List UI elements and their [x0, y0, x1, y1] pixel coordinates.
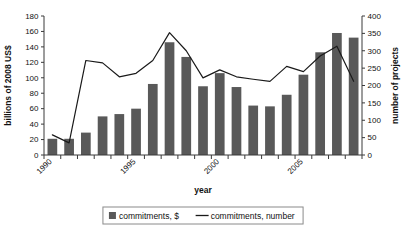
bar-2001: [232, 87, 242, 155]
bar-2000: [215, 73, 225, 155]
bar-2002: [248, 106, 258, 155]
bar-2004: [282, 95, 292, 155]
bar-2008: [349, 38, 359, 155]
bar-1999: [198, 86, 208, 155]
ytick-label-right-150: 150: [368, 99, 382, 108]
ytick-label-left-100: 100: [25, 74, 39, 83]
ytick-label-right-100: 100: [368, 116, 382, 125]
bar-2005: [299, 75, 309, 155]
legend: commitments, $commitments, number: [103, 207, 303, 224]
ytick-label-left-0: 0: [34, 151, 39, 160]
ytick-label-left-60: 60: [30, 104, 39, 113]
y-axis-title-right: number of projects: [390, 47, 400, 124]
ytick-label-left-20: 20: [30, 135, 39, 144]
bar-1995: [131, 109, 141, 155]
ytick-label-right-50: 50: [368, 133, 377, 142]
bar-1990: [48, 139, 58, 155]
bar-1998: [181, 57, 191, 155]
legend-swatch-commitments-dollar: [109, 212, 116, 219]
bar-2003: [265, 106, 275, 155]
xtick-labels: 1990199520002005: [35, 157, 305, 176]
chart-container: 0204060801001201401601800501001502002503…: [0, 0, 408, 236]
bar-1997: [165, 42, 175, 155]
ytick-label-right-0: 0: [368, 151, 373, 160]
legend-label-commitments-number: commitments, number: [211, 211, 295, 221]
ytick-label-left-140: 140: [25, 43, 39, 52]
bar-1996: [148, 84, 158, 155]
xtick-label-1995: 1995: [119, 157, 138, 176]
ytick-label-left-80: 80: [30, 89, 39, 98]
figure-canvas: 0204060801001201401601800501001502002503…: [0, 0, 408, 236]
x-axis-title: year: [194, 185, 212, 195]
ytick-label-right-250: 250: [368, 64, 382, 73]
ytick-label-left-180: 180: [25, 12, 39, 21]
bar-1994: [114, 114, 124, 155]
legend-label-commitments-dollar: commitments, $: [119, 211, 179, 221]
bar-1992: [81, 133, 91, 155]
ytick-label-right-400: 400: [368, 12, 382, 21]
ytick-label-left-160: 160: [25, 27, 39, 36]
ytick-label-right-350: 350: [368, 29, 382, 38]
bar-2007: [332, 33, 342, 155]
bar-series: [48, 33, 359, 155]
ytick-label-left-120: 120: [25, 58, 39, 67]
bar-1993: [98, 116, 108, 155]
y-axis-title-left: billions of 2008 US$: [3, 45, 13, 126]
ytick-label-right-300: 300: [368, 47, 382, 56]
xtick-label-2000: 2000: [202, 157, 221, 176]
ytick-label-left-40: 40: [30, 120, 39, 129]
xtick-label-2005: 2005: [286, 157, 305, 176]
ytick-label-right-200: 200: [368, 81, 382, 90]
bar-2006: [315, 52, 325, 155]
